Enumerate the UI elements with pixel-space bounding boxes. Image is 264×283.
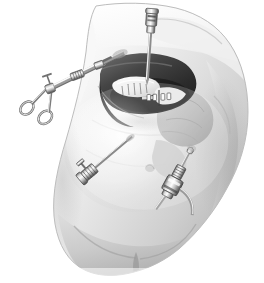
bottom-fade [0,268,264,283]
epigastric-cap [146,8,159,14]
illustration-canvas [0,0,264,283]
epigastric-collar [147,26,155,34]
epigastric-valve-housing [146,13,158,27]
laparoscopy-illustration [0,0,264,283]
